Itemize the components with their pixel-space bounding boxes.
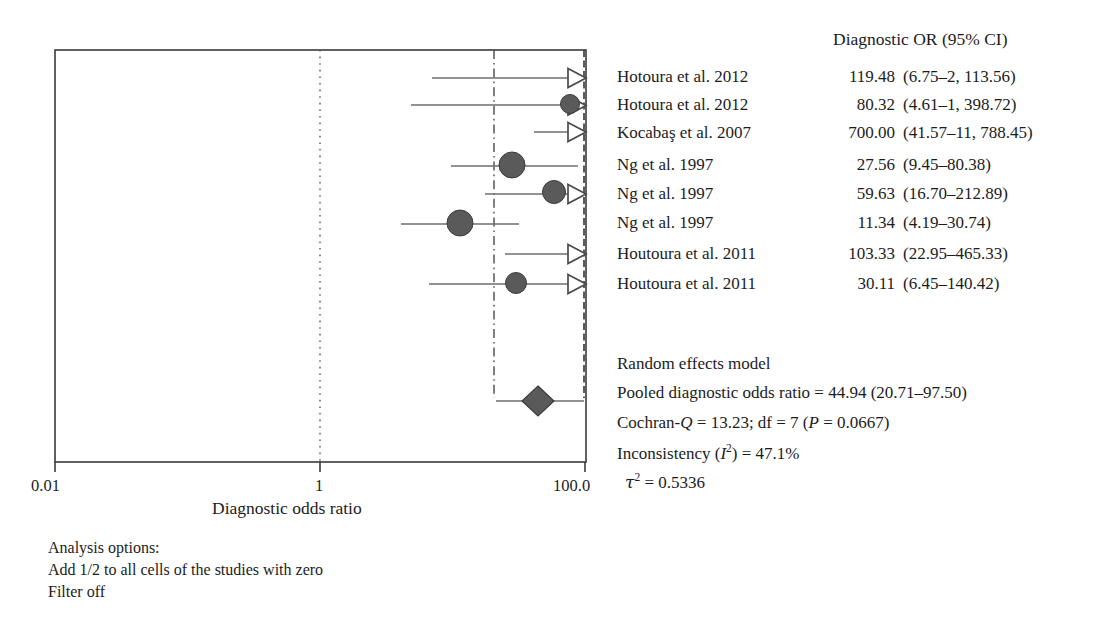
or-value-4: 27.56 [833, 156, 895, 173]
study-label-2: Hotoura et al. 2012 [617, 96, 748, 113]
forest-row-3 [534, 123, 586, 142]
pooled-diamond-marker [522, 386, 554, 416]
study-label-8: Houtoura et al. 2011 [617, 275, 756, 292]
or-value-5: 59.63 [833, 185, 895, 202]
or-value-7: 103.33 [833, 245, 895, 262]
study-label-6: Ng et al. 1997 [617, 214, 713, 231]
or-ci-6: (4.19–30.74) [903, 214, 991, 231]
tau-symbol: τ [625, 472, 634, 492]
study-label-7: Houtoura et al. 2011 [617, 245, 756, 262]
x-axis-ticks [55, 462, 585, 472]
cochran-prefix: Cochran- [617, 413, 680, 432]
or-value-1: 119.48 [833, 68, 895, 85]
cochran-rest: = 13.23; df = 7 ( [693, 413, 809, 432]
x-tick-label-min: 0.01 [31, 478, 60, 495]
forest-plot-figure: 0.01 1 100.0 Diagnostic odds ratio Diagn… [0, 0, 1103, 628]
analysis-options-line-2: Filter off [48, 584, 105, 600]
cochran-q-label: Cochran-Q = 13.23; df = 7 (P = 0.0667) [617, 414, 889, 431]
study-label-4: Ng et al. 1997 [617, 156, 713, 173]
or-value-6: 11.34 [833, 214, 895, 231]
tau-tail: = 0.5336 [640, 473, 705, 492]
pooled-odds-ratio-label: Pooled diagnostic odds ratio = 44.94 (20… [617, 384, 967, 401]
or-ci-7: (22.95–465.33) [903, 245, 1008, 262]
or-ci-3: (41.57–11, 788.45) [903, 124, 1033, 141]
or-ci-4: (9.45–80.38) [903, 156, 991, 173]
x-tick-label-mid: 1 [315, 478, 323, 495]
or-ci-2: (4.61–1, 398.72) [903, 96, 1016, 113]
or-value-3: 700.00 [833, 124, 895, 141]
inconsistency-tail: ) = 47.1% [732, 444, 800, 463]
forest-row-7 [505, 245, 586, 264]
analysis-options-line-1: Add 1/2 to all cells of the studies with… [48, 562, 323, 578]
cochran-tail: = 0.0667) [819, 413, 890, 432]
forest-row-1 [432, 69, 586, 88]
pooled-summary-row [496, 386, 584, 416]
forest-row-5 [485, 181, 586, 204]
study-marker [543, 181, 566, 204]
study-label-3: Kocabaş et al. 2007 [617, 124, 751, 141]
x-tick-label-max: 100.0 [553, 478, 590, 495]
inconsistency-prefix: Inconsistency ( [617, 444, 720, 463]
analysis-options-header: Analysis options: [48, 540, 160, 556]
study-marker [506, 273, 527, 294]
tau-squared-label: τ2 = 0.5336 [625, 474, 705, 491]
study-marker [499, 152, 525, 178]
or-value-2: 80.32 [833, 96, 895, 113]
or-ci-1: (6.75–2, 113.56) [903, 68, 1016, 85]
forest-row-2 [411, 95, 586, 116]
cochran-p-symbol: P [809, 413, 819, 432]
or-value-8: 30.11 [833, 275, 895, 292]
study-marker [561, 95, 580, 114]
forest-row-8 [429, 273, 586, 294]
forest-row-4 [451, 152, 578, 178]
inconsistency-label: Inconsistency (I2) = 47.1% [617, 445, 800, 462]
random-effects-model-label: Random effects model [617, 355, 771, 372]
or-ci-5: (16.70–212.89) [903, 185, 1008, 202]
or-ci-8: (6.45–140.42) [903, 275, 999, 292]
forest-row-6 [401, 210, 519, 236]
cochran-q-symbol: Q [680, 413, 692, 432]
study-label-5: Ng et al. 1997 [617, 185, 713, 202]
x-axis-title: Diagnostic odds ratio [212, 500, 362, 518]
study-marker [447, 210, 473, 236]
study-label-1: Hotoura et al. 2012 [617, 68, 748, 85]
or-column-header: Diagnostic OR (95% CI) [833, 31, 1008, 49]
